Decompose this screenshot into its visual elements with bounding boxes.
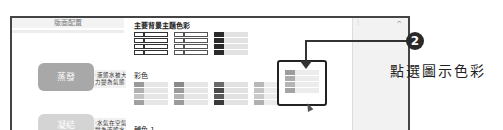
- smartart-color-dialog: 版面配置 蒸發 ‧液態水被大 力變為氣態 凝結 ‧水氣在空氣 變為液態水 主要背…: [10, 16, 410, 130]
- color-swatch-colorful-5[interactable]: [285, 70, 319, 96]
- smartart-text-evaporation[interactable]: ‧液態水被大 力變為氣態: [94, 70, 126, 88]
- smartart-text-condensation[interactable]: ‧水氣在空氣 變為液態水: [94, 118, 126, 130]
- layout-preview-pane: 版面配置 蒸發 ‧液態水被大 力變為氣態 凝結 ‧水氣在空氣 變為液態水: [12, 18, 124, 130]
- section-label-colorful: 彩色: [134, 70, 148, 80]
- text-line: 變為液態水: [95, 127, 125, 130]
- layout-pane-header: 版面配置: [12, 18, 124, 28]
- color-swatch-colorful-1[interactable]: [134, 82, 168, 108]
- callout-line: [305, 40, 407, 42]
- text-line: 力變為氣態: [95, 79, 125, 86]
- callout-line: [305, 40, 307, 62]
- text-line: ‧液態水被大: [95, 72, 125, 79]
- section-label-accent-1: 輔色 1: [134, 124, 155, 130]
- section-label-primary-theme: 主要背景主題色彩: [134, 20, 190, 30]
- scroll-up-icon[interactable]: ^: [396, 20, 402, 28]
- color-swatch-primary-3[interactable]: [214, 32, 248, 58]
- smartart-shape-condensation[interactable]: 凝結: [38, 114, 94, 130]
- step-number-badge: 2: [406, 32, 424, 50]
- text-line: ‧水氣在空氣: [95, 120, 125, 127]
- color-swatch-primary-1[interactable]: [134, 32, 168, 58]
- color-swatch-colorful-3[interactable]: [214, 82, 248, 108]
- divider: [12, 30, 124, 33]
- color-swatch-colorful-2[interactable]: [174, 82, 208, 108]
- color-swatch-primary-2[interactable]: [174, 32, 208, 58]
- arrow-down-icon: [300, 61, 312, 69]
- callout-caption: 點選圖示色彩: [390, 60, 486, 80]
- smartart-shape-evaporation[interactable]: 蒸發: [38, 63, 94, 91]
- scroll-grip-icon: ⋮: [355, 18, 361, 25]
